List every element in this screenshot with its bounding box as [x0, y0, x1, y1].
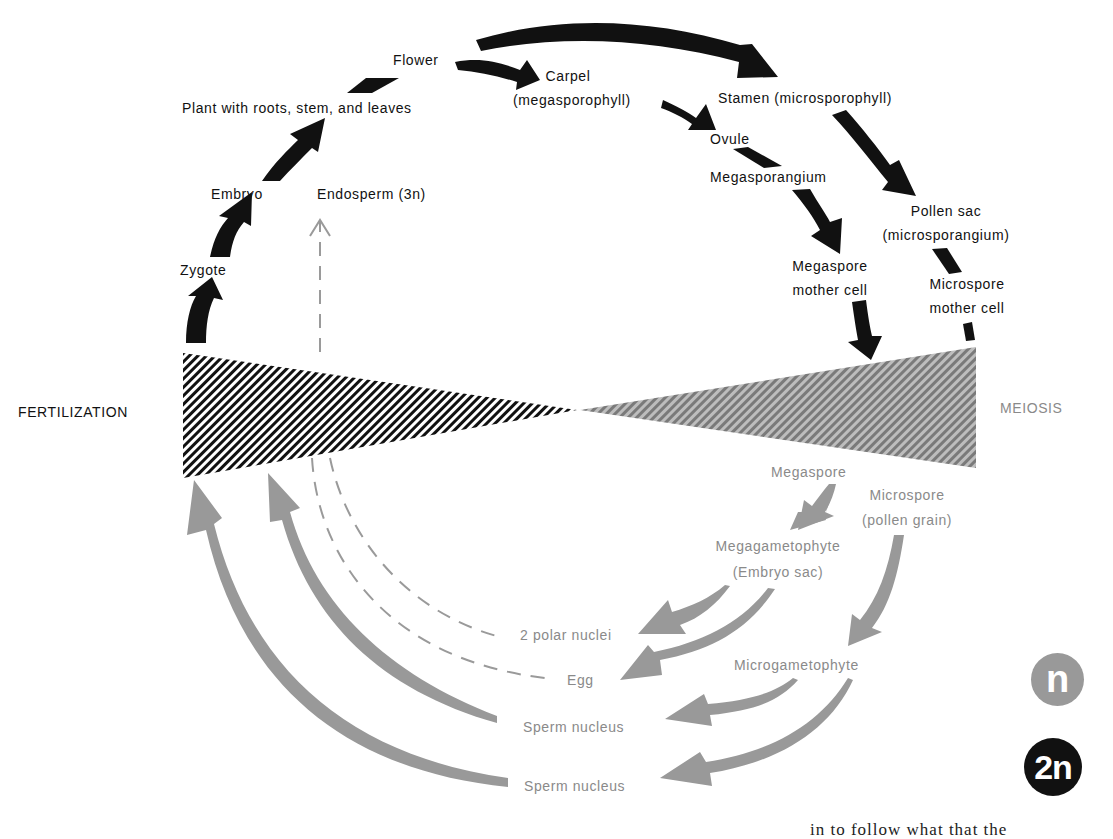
pollen-sac-label-line2: (microsporangium): [866, 227, 1026, 244]
arrow-to-megasporangium: [733, 147, 782, 168]
endosperm-label: Endosperm (3n): [317, 186, 426, 203]
arrow-to-sperm-2: [660, 678, 853, 786]
microspore-label-line2: (pollen grain): [852, 512, 962, 529]
sperm-nucleus-2-label: Sperm nucleus: [524, 778, 625, 795]
arrow-to-microgametophyte: [848, 535, 904, 646]
carpel-label-line2: (megasporophyll): [513, 92, 623, 109]
polar-nuclei-dashed-line: [330, 458, 500, 637]
pollen-sac-label-line1: Pollen sac: [866, 203, 1026, 220]
megaspore-label: Megaspore: [771, 464, 846, 481]
ovule-label: Ovule: [710, 131, 750, 148]
arrow-sperm1-to-fertilization: [268, 473, 497, 723]
polar-nuclei-label: 2 polar nuclei: [520, 627, 612, 644]
megaspore-mother-cell-label: Megaspore mother cell: [775, 258, 885, 299]
arrow-to-megaspore-mother: [792, 189, 842, 254]
pollen-sac-label: Pollen sac (microsporangium): [866, 203, 1026, 244]
megagametophyte-label-line2: (Embryo sac): [703, 564, 853, 581]
fusion-dashed-lines: [312, 458, 545, 678]
megagametophyte-label-line1: Megagametophyte: [703, 538, 853, 555]
meiosis-label: MEIOSIS: [1000, 400, 1063, 417]
microspore-label: Microspore (pollen grain): [852, 487, 962, 529]
endosperm-arrow: [310, 220, 330, 352]
egg-label: Egg: [567, 672, 594, 689]
arrow-to-pollen-sac: [832, 110, 916, 196]
stamen-label: Stamen (microsporophyll): [718, 90, 892, 107]
arrow-to-meiosis-mega: [848, 300, 882, 360]
legend-haploid-badge: n: [1031, 653, 1084, 706]
microspore-mother-cell-line1: Microspore: [912, 276, 1022, 293]
megagametophyte-label: Megagametophyte (Embryo sac): [703, 538, 853, 581]
meiosis-wedge: [580, 347, 976, 468]
carpel-label: Carpel (megasporophyll): [513, 68, 623, 109]
flower-label: Flower: [393, 52, 439, 69]
carpel-label-line1: Carpel: [513, 68, 623, 85]
arrow-to-flower: [347, 78, 399, 93]
microspore-label-line1: Microspore: [852, 487, 962, 504]
sperm-nucleus-1-label: Sperm nucleus: [523, 719, 624, 736]
megaspore-mother-cell-line1: Megaspore: [775, 258, 885, 275]
footer-text-fragment: in to follow what that the: [810, 820, 1007, 839]
embryo-label: Embryo: [211, 186, 263, 203]
arrow-to-microspore-mother: [932, 248, 962, 274]
arrow-to-zygote: [186, 277, 223, 343]
arrow-to-polar-nuclei: [638, 585, 730, 634]
egg-dashed-line: [312, 458, 545, 678]
microspore-mother-cell-line2: mother cell: [912, 300, 1022, 317]
fertilization-wedge: [183, 353, 577, 478]
plant-label: Plant with roots, stem, and leaves: [182, 100, 412, 117]
arrow-to-plant: [262, 118, 325, 181]
arrow-to-sperm-1: [665, 678, 798, 726]
megaspore-mother-cell-line2: mother cell: [775, 282, 885, 299]
fertilization-label: FERTILIZATION: [18, 404, 128, 421]
microspore-mother-cell-label: Microspore mother cell: [912, 276, 1022, 317]
zygote-label: Zygote: [180, 262, 226, 279]
arrow-to-meiosis-micro: [963, 322, 975, 341]
arrow-to-ovule: [661, 100, 716, 130]
megasporangium-label: Megasporangium: [710, 169, 827, 186]
legend-diploid-badge: 2n: [1024, 738, 1082, 796]
microgametophyte-label: Microgametophyte: [734, 657, 859, 674]
